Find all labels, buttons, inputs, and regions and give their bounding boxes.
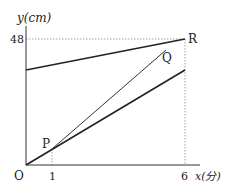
graph-svg: y(cm) 48 O 1 6 x(分) P Q R (0, 0, 233, 191)
point-r-label: R (188, 32, 198, 46)
y-axis-label: y(cm) (16, 11, 52, 25)
origin-label: O (14, 169, 24, 183)
tick-y-48: 48 (10, 33, 24, 46)
point-p-label: P (42, 137, 50, 151)
graph-diagram: y(cm) 48 O 1 6 x(分) P Q R (0, 0, 233, 191)
x-axis-label: x(分) (195, 170, 221, 183)
line-pq (52, 50, 166, 149)
point-q-label: Q (162, 51, 172, 65)
tick-x-1: 1 (49, 170, 56, 183)
tick-x-6: 6 (181, 170, 188, 183)
